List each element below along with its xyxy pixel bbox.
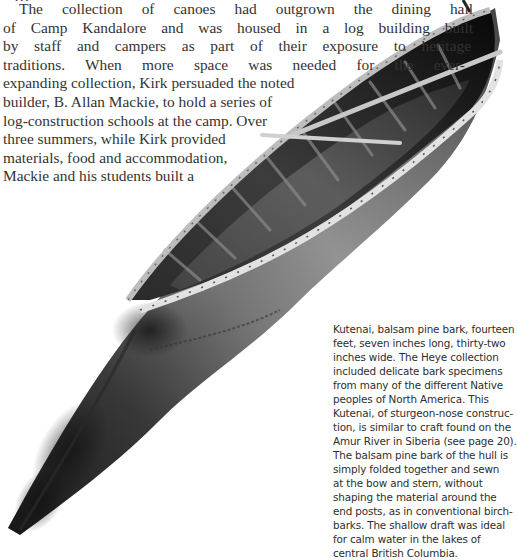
caption-line: for calm water in the lakes of <box>333 532 503 546</box>
caption-line: Amur River in Siberia (see page 20). <box>333 434 503 448</box>
body-line: traditions. When more space was needed f… <box>3 56 465 75</box>
body-line: expanding collection, Kirk persuaded the… <box>3 74 287 93</box>
body-paragraph: The collection of canoes had outgrown th… <box>3 0 473 186</box>
caption-line: Kutenai, balsam pine bark, fourteen <box>333 322 503 336</box>
body-line: materials, food and accommodation, <box>3 149 202 168</box>
body-line: builder, B. Allan Mackie, to hold a seri… <box>3 93 251 112</box>
caption-line: barks. The shallow draft was ideal <box>333 518 503 532</box>
body-line: three summers, while Kirk provided <box>3 130 219 149</box>
caption-line: end posts, as in conventional birch- <box>333 504 503 518</box>
figure-caption: Kutenai, balsam pine bark, fourteen feet… <box>333 322 503 560</box>
caption-line: from many of the different Native <box>333 378 503 392</box>
body-line: of Camp Kandalore and was housed in a lo… <box>3 19 473 38</box>
caption-line: central British Columbia. <box>333 546 503 560</box>
caption-line: at the bow and stern, without <box>333 476 503 490</box>
caption-line: peoples of North America. This <box>333 392 503 406</box>
caption-line: tion, is similar to craft found on the <box>333 420 503 434</box>
caption-line: included delicate bark specimens <box>333 364 503 378</box>
caption-line: simply folded together and sewn <box>333 462 503 476</box>
caption-line: The balsam pine bark of the hull is <box>333 448 503 462</box>
caption-line: feet, seven inches long, thirty-two <box>333 336 503 350</box>
body-line: log-construction schools at the camp. Ov… <box>3 112 237 131</box>
caption-line: inches wide. The Heye collection <box>333 350 503 364</box>
body-line: Mackie and his students built a <box>3 167 185 186</box>
body-line: by staff and campers as part of their ex… <box>3 37 471 56</box>
caption-line: Kutenai, of sturgeon-nose construc- <box>333 406 503 420</box>
body-line: The collection of canoes had outgrown th… <box>3 0 473 19</box>
caption-line: shaping the material around the <box>333 490 503 504</box>
